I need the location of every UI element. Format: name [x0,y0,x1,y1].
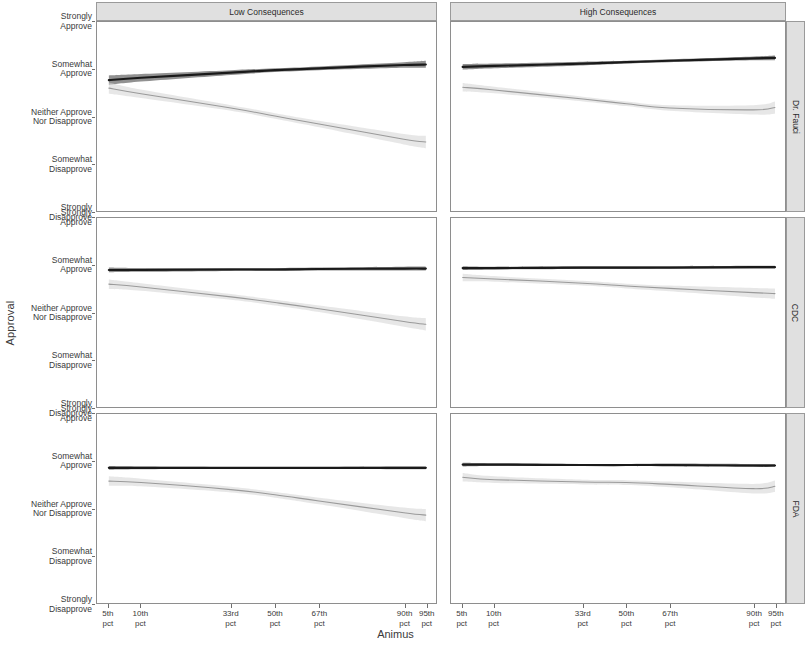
column-strip-high-consequences: High Consequences [450,2,786,21]
x-axis-tick-mark [405,604,406,608]
x-axis-tick-mark [319,604,320,608]
y-axis-tick-label: StronglyDisapprove [8,595,92,614]
y-axis-tick-mark [92,604,95,605]
trend-line-series-1 [463,278,775,294]
y-axis-tick-mark [92,117,95,118]
y-tick-line2: Nor Disapprove [8,117,92,127]
y-axis-tick-mark [92,509,95,510]
row-strip-label: CDC [791,303,801,321]
x-axis-tick-mark [670,604,671,608]
y-axis-tick-label: Neither ApproveNor Disapprove [8,499,92,518]
y-axis-tick-label: StronglyApprove [8,404,92,423]
x-axis-tick-label: 50thpct [606,609,646,628]
panel-cdc-high [450,217,786,408]
y-axis-tick-mark [92,556,95,557]
y-axis-tick-mark [92,217,95,218]
x-axis-tick-mark [427,604,428,608]
x-axis-tick-mark [462,604,463,608]
y-axis-tick-mark [92,164,95,165]
y-axis-tick-label: StronglyApprove [8,12,92,31]
x-tick-line1: 67th [650,609,690,619]
row-strip-fda: FDA [786,413,805,604]
y-axis-tick-mark [92,21,95,22]
x-axis-tick-mark [140,604,141,608]
x-axis-title-label: Animus [377,628,414,640]
x-axis-tick-label: 10thpct [120,609,160,628]
y-axis-tick-mark [92,408,95,409]
x-tick-line1: 67th [299,609,339,619]
x-tick-line1: 33rd [211,609,251,619]
x-axis-tick-mark [583,604,584,608]
x-tick-line1: 95th [756,609,796,619]
row-strip-label: FDA [791,500,801,517]
y-tick-line2: Approve [8,69,92,79]
y-tick-line2: Approve [8,413,92,423]
y-axis-tick-label: SomewhatApprove [8,451,92,470]
x-tick-line2: pct [255,619,295,629]
y-tick-line2: Disapprove [8,164,92,174]
x-axis-tick-label: 10thpct [474,609,514,628]
column-strip-label: High Consequences [580,7,657,17]
y-tick-line2: Approve [8,217,92,227]
y-tick-line2: Disapprove [8,360,92,370]
x-axis-tick-mark [494,604,495,608]
y-axis-tick-mark [92,265,95,266]
x-tick-line2: pct [650,619,690,629]
x-tick-line2: pct [606,619,646,629]
confidence-ribbon-series-1 [109,279,426,330]
trend-line-series-0 [463,267,775,268]
x-tick-line2: pct [120,619,160,629]
x-axis-tick-mark [626,604,627,608]
confidence-ribbon-series-1 [463,473,775,494]
x-tick-line2: pct [563,619,603,629]
trend-line-series-0 [463,58,775,67]
x-tick-line2: pct [299,619,339,629]
y-axis-tick-label: Neither ApproveNor Disapprove [8,107,92,126]
chart-figure: Approval Animus Low ConsequencesHigh Con… [0,0,811,646]
y-axis-tick-mark [92,69,95,70]
x-axis-tick-label: 33rdpct [211,609,251,628]
x-tick-line2: pct [756,619,796,629]
panel-dr-fauci-high [450,21,786,212]
y-axis-tick-mark [92,212,95,213]
x-tick-line1: 33rd [563,609,603,619]
y-tick-line2: Disapprove [8,556,92,566]
confidence-ribbon-series-1 [463,274,775,299]
x-axis-tick-mark [776,604,777,608]
x-axis-tick-mark [754,604,755,608]
y-axis-tick-label: StronglyApprove [8,208,92,227]
y-axis-tick-label: SomewhatDisapprove [8,155,92,174]
y-axis-tick-label: SomewhatApprove [8,255,92,274]
x-tick-line2: pct [211,619,251,629]
panel-cdc-low [96,217,437,408]
column-strip-label: Low Consequences [229,7,304,17]
x-axis-tick-label: 67thpct [299,609,339,628]
row-strip-dr-fauci: Dr. Fauci [786,21,805,212]
y-tick-line2: Approve [8,461,92,471]
y-axis-tick-mark [92,360,95,361]
column-strip-low-consequences: Low Consequences [96,2,437,21]
y-axis-tick-mark [92,461,95,462]
y-tick-line2: Approve [8,265,92,275]
y-axis-tick-label: SomewhatDisapprove [8,351,92,370]
x-tick-line1: 50th [255,609,295,619]
y-axis-tick-label: Neither ApproveNor Disapprove [8,303,92,322]
y-tick-line2: Approve [8,21,92,31]
panel-fda-high [450,413,786,604]
y-axis-tick-mark [92,313,95,314]
x-axis-tick-label: 33rdpct [563,609,603,628]
y-axis-tick-label: SomewhatApprove [8,59,92,78]
panel-dr-fauci-low [96,21,437,212]
trend-line-series-0 [463,465,775,466]
y-axis-tick-mark [92,413,95,414]
x-tick-line2: pct [474,619,514,629]
x-tick-line1: 10th [474,609,514,619]
y-axis-tick-label: SomewhatDisapprove [8,547,92,566]
panel-fda-low [96,413,437,604]
x-axis-tick-mark [108,604,109,608]
row-strip-label: Dr. Fauci [791,99,801,133]
x-axis-tick-mark [231,604,232,608]
x-axis-tick-label: 67thpct [650,609,690,628]
y-tick-line2: Nor Disapprove [8,509,92,519]
y-tick-line2: Nor Disapprove [8,313,92,323]
